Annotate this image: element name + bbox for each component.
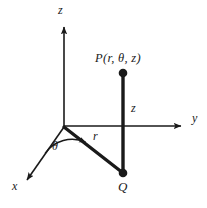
point-p-dot (119, 69, 128, 78)
z-axis-label: z (58, 4, 63, 16)
z-segment-label: z (131, 102, 136, 114)
r-segment-label: r (93, 130, 98, 142)
diagram-canvas (0, 0, 207, 208)
cylindrical-coordinates-figure: z y x θ r z P(r, θ, z) Q (0, 0, 207, 208)
point-p-label: P(r, θ, z) (95, 52, 141, 65)
y-axis-label: y (192, 112, 197, 124)
theta-angle-label: θ (52, 140, 58, 152)
point-q-dot (119, 169, 128, 178)
x-axis-label: x (12, 180, 17, 192)
point-q-label: Q (118, 180, 127, 193)
